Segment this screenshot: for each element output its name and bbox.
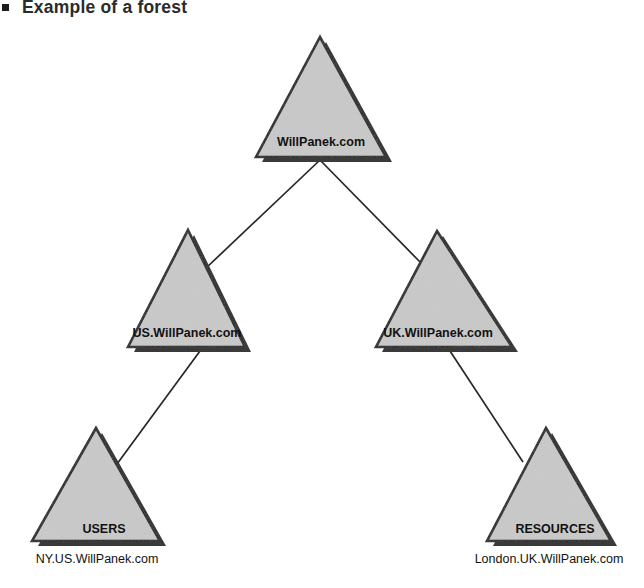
- root-label: WillPanek.com: [277, 135, 365, 149]
- users-label: USERS: [82, 522, 125, 536]
- node-us[interactable]: US.WillPanek.com: [128, 230, 251, 352]
- edge-root-us: [205, 160, 320, 269]
- edge-root-uk: [320, 160, 421, 263]
- node-uk[interactable]: UK.WillPanek.com: [376, 231, 518, 352]
- node-root[interactable]: WillPanek.com: [256, 37, 392, 162]
- resources-caption: London.UK.WillPanek.com: [475, 552, 624, 566]
- uk-label: UK.WillPanek.com: [383, 326, 493, 340]
- resources-label: RESOURCES: [515, 522, 594, 536]
- forest-diagram: WillPanek.com US.WillPanek.com UK.WillPa…: [0, 0, 644, 588]
- edge-us-users: [117, 351, 200, 464]
- users-caption: NY.US.WillPanek.com: [36, 552, 159, 566]
- diagram-canvas: WillPanek.com US.WillPanek.com UK.WillPa…: [0, 0, 644, 588]
- edge-uk-resources: [450, 351, 523, 462]
- node-users[interactable]: USERS NY.US.WillPanek.com: [32, 428, 166, 566]
- node-resources[interactable]: RESOURCES London.UK.WillPanek.com: [475, 428, 624, 566]
- us-label: US.WillPanek.com: [133, 326, 242, 340]
